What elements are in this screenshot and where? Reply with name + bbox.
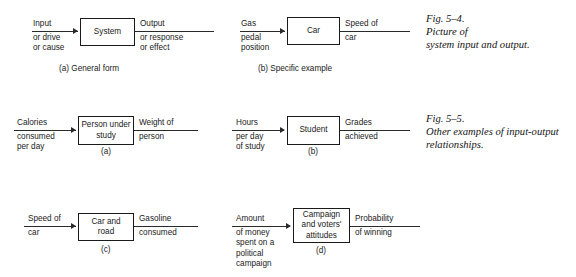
part-caption-car-and-road: (c) — [101, 245, 111, 255]
input-label-specific-example-below: pedal position — [241, 33, 269, 54]
system-box-car-and-road-label: Car and road — [91, 217, 120, 237]
part-caption-specific-example: (b) Specific example — [258, 64, 332, 74]
input-label-general-form-below: or drive or cause — [33, 33, 64, 54]
input-arrowhead-campaign — [286, 223, 291, 229]
system-box-student-label: Student — [299, 125, 327, 135]
input-arrowhead-person-under-study — [71, 127, 76, 133]
input-arrowhead-car-and-road — [71, 223, 76, 229]
input-arrowhead-general-form — [73, 28, 78, 34]
input-label-car-and-road-above: Speed of — [28, 214, 61, 224]
input-line-student — [232, 130, 284, 131]
input-line-general-form — [32, 31, 78, 32]
output-label-student-above: Grades — [345, 118, 372, 128]
part-caption-campaign: (d) — [316, 246, 326, 256]
output-label-specific-example-below: car — [345, 33, 356, 43]
system-box-general-form: System — [80, 18, 135, 46]
system-box-specific-example-label: Car — [307, 26, 320, 36]
input-label-student-below: per day of study — [236, 132, 265, 153]
input-line-campaign — [232, 226, 290, 227]
output-label-campaign-above: Probability — [355, 214, 393, 224]
input-arrowhead-student — [280, 127, 285, 133]
input-label-general-form-above: Input — [33, 19, 51, 29]
input-line-specific-example — [240, 31, 285, 32]
system-box-person-under-study: Person under study — [78, 116, 134, 145]
output-label-specific-example-above: Speed of — [345, 19, 378, 29]
output-label-car-and-road-above: Gasoline — [139, 214, 171, 224]
system-box-general-form-label: System — [94, 27, 121, 37]
output-line-person-under-study — [134, 130, 198, 131]
input-label-person-under-study-below: consumed per day — [17, 132, 55, 153]
output-line-car-and-road — [134, 226, 198, 227]
output-label-campaign-below: of winning — [355, 228, 392, 238]
output-label-car-and-road-below: consumed — [139, 228, 177, 238]
input-label-specific-example-above: Gas — [241, 19, 256, 29]
figure-caption-5-4: Fig. 5–4. Picture of system input and ou… — [426, 12, 530, 52]
part-caption-student: (b) — [308, 147, 318, 157]
part-caption-general-form: (a) General form — [59, 64, 119, 74]
output-label-general-form-below: or response or effect — [140, 33, 183, 54]
output-label-student-below: achieved — [345, 132, 378, 142]
part-caption-person-under-study: (a) — [101, 147, 111, 157]
system-box-campaign-label: Campaign and voters' attitudes — [302, 210, 342, 241]
output-line-general-form — [135, 31, 214, 32]
input-label-car-and-road-below: car — [28, 228, 39, 238]
system-box-campaign: Campaign and voters' attitudes — [293, 208, 350, 243]
output-line-campaign — [350, 226, 420, 227]
output-line-student — [340, 130, 410, 131]
output-label-general-form-above: Output — [140, 19, 165, 29]
input-line-person-under-study — [14, 130, 76, 131]
figure-canvas: Input or drive or cause System Output or… — [0, 0, 576, 277]
system-box-student: Student — [287, 116, 340, 145]
system-box-specific-example: Car — [287, 17, 340, 45]
system-box-car-and-road: Car and road — [78, 213, 134, 241]
system-box-person-under-study-label: Person under study — [81, 120, 130, 140]
input-label-person-under-study-above: Calories — [17, 118, 47, 128]
output-label-person-under-study-below: person — [139, 132, 164, 142]
output-label-person-under-study-above: Weight of — [139, 118, 173, 128]
input-label-campaign-above: Amount — [236, 214, 264, 224]
input-label-campaign-below: of money spent on a political campaign — [236, 228, 274, 269]
input-line-car-and-road — [24, 226, 76, 227]
output-line-specific-example — [340, 31, 410, 32]
input-arrowhead-specific-example — [280, 28, 285, 34]
figure-caption-5-5: Fig. 5–5. Other examples of input-output… — [426, 112, 559, 152]
input-label-student-above: Hours — [236, 118, 258, 128]
